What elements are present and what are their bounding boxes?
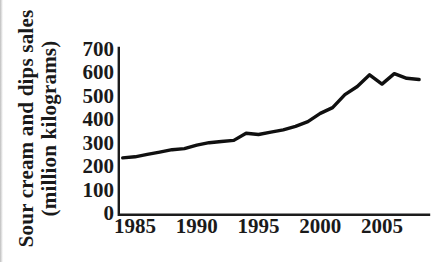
y-tick-label: 400	[68, 107, 114, 131]
y-tick-label: 500	[68, 84, 114, 108]
y-tick-label: 600	[68, 60, 114, 84]
y-tick-label: 300	[68, 131, 114, 155]
sales-trend-line	[123, 74, 419, 158]
y-tick-label: 100	[68, 178, 114, 202]
sour-cream-sales-line-chart: Sour cream and dips sales (million kilog…	[0, 0, 446, 262]
y-tick-label: 700	[68, 37, 114, 61]
x-tick-label: 2005	[342, 214, 422, 238]
y-tick-label: 200	[68, 154, 114, 178]
